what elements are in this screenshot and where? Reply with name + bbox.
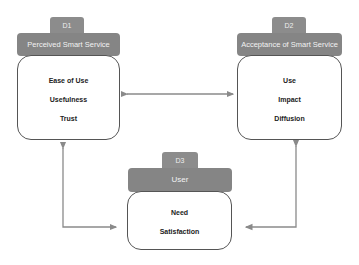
d3-tab: D3 xyxy=(162,152,198,169)
d1-header: Perceived Smart Service Quality xyxy=(17,33,120,56)
d2-box: Use Impact Diffusion xyxy=(237,55,342,140)
d1-item-trust: Trust xyxy=(18,115,119,122)
d1-item-usefulness: Usefulness xyxy=(18,96,119,103)
d3-item-satisfaction: Satisfaction xyxy=(128,228,231,235)
d1-box: Ease of Use Usefulness Trust xyxy=(17,55,120,140)
d3-item-need: Need xyxy=(128,209,231,216)
d1-item-ease-of-use: Ease of Use xyxy=(18,77,119,84)
d3-header: User xyxy=(128,168,232,192)
d2-item-use: Use xyxy=(238,77,341,84)
arrow-d1-d3 xyxy=(63,148,116,227)
d2-item-impact: Impact xyxy=(238,96,341,103)
d3-box: Need Satisfaction xyxy=(127,191,232,250)
d2-tab: D2 xyxy=(272,17,306,34)
d1-tab: D1 xyxy=(50,17,84,34)
d2-item-diffusion: Diffusion xyxy=(238,115,341,122)
arrow-d2-d3 xyxy=(246,146,296,227)
d2-header: Acceptance of Smart Service xyxy=(237,33,342,56)
